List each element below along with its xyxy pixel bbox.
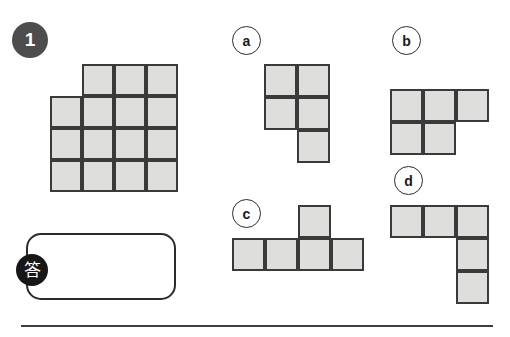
prompt-cell (146, 160, 178, 192)
answer-input-box[interactable] (26, 233, 176, 300)
prompt-cell (146, 64, 178, 96)
option-c-cell (265, 238, 298, 271)
prompt-cell (114, 128, 146, 160)
puzzle-page: 1 abcd 答 (0, 0, 510, 337)
prompt-cell (146, 96, 178, 128)
option-c-label[interactable]: c (232, 199, 261, 228)
option-b-label[interactable]: b (392, 26, 421, 55)
prompt-cell (50, 128, 82, 160)
option-d-cell (390, 205, 423, 238)
option-d-label[interactable]: d (394, 166, 423, 195)
option-a-cell (297, 97, 330, 130)
option-b-cell (390, 89, 423, 122)
option-b-cell (423, 89, 456, 122)
prompt-cell (146, 128, 178, 160)
option-a-cell (264, 64, 297, 97)
prompt-cell (82, 96, 114, 128)
answer-label-badge: 答 (16, 254, 48, 286)
prompt-cell (114, 96, 146, 128)
prompt-cell (82, 64, 114, 96)
option-c-cell (331, 238, 364, 271)
option-d-cell (456, 205, 489, 238)
prompt-cell (114, 160, 146, 192)
prompt-cell (82, 128, 114, 160)
option-c-cell (298, 205, 331, 238)
prompt-cell (50, 160, 82, 192)
prompt-cell (82, 160, 114, 192)
bottom-divider (21, 325, 493, 327)
prompt-cell (50, 96, 82, 128)
option-b-cell (423, 122, 456, 155)
option-d-cell (456, 238, 489, 271)
option-a-label[interactable]: a (232, 26, 261, 55)
question-number-badge: 1 (12, 22, 48, 58)
prompt-cell (114, 64, 146, 96)
option-c-cell (298, 238, 331, 271)
option-d-cell (423, 205, 456, 238)
option-d-cell (456, 271, 489, 304)
option-a-cell (297, 64, 330, 97)
option-a-cell (264, 97, 297, 130)
option-b-cell (456, 89, 489, 122)
option-a-cell (297, 130, 330, 163)
option-b-cell (390, 122, 423, 155)
option-c-cell (232, 238, 265, 271)
